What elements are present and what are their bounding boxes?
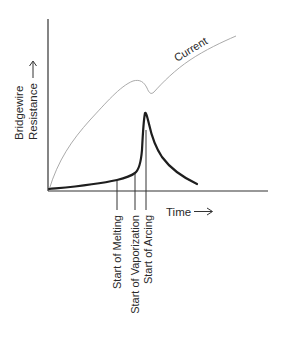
y-axis-label-line1: Bridgewire	[13, 86, 25, 140]
x-axis-arrow-icon	[194, 208, 213, 215]
melting-marker-label: Start of Melting	[111, 215, 123, 289]
x-axis-label: Time	[166, 206, 191, 218]
current-curve	[49, 36, 236, 190]
bridgewire-diagram: Bridgewire Resistance Time Current Start…	[0, 0, 281, 341]
arcing-marker-label: Start of Arcing	[142, 215, 154, 284]
y-axis-label-line2: Resistance	[27, 83, 39, 140]
vaporization-marker-label: Start of Vaporization	[129, 215, 141, 314]
y-axis-arrow-icon	[30, 61, 37, 78]
resistance-curve	[49, 113, 197, 189]
